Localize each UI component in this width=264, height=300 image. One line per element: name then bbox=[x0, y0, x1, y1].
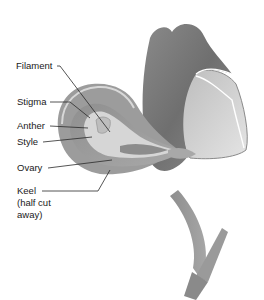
label-style: Style bbox=[17, 136, 38, 147]
wing-petal bbox=[182, 70, 248, 159]
label-stigma: Stigma bbox=[17, 96, 47, 107]
label-keel: Keel bbox=[17, 185, 36, 196]
stem bbox=[170, 190, 228, 300]
label-keel-note-2: away) bbox=[17, 209, 42, 220]
flower-illustration bbox=[0, 0, 264, 300]
label-filament: Filament bbox=[16, 60, 52, 71]
label-ovary: Ovary bbox=[17, 162, 42, 173]
label-anther: Anther bbox=[17, 120, 45, 131]
label-keel-note-1: (half cut bbox=[17, 197, 51, 208]
flower-diagram: Filament Stigma Anther Style Ovary Keel … bbox=[0, 0, 264, 300]
